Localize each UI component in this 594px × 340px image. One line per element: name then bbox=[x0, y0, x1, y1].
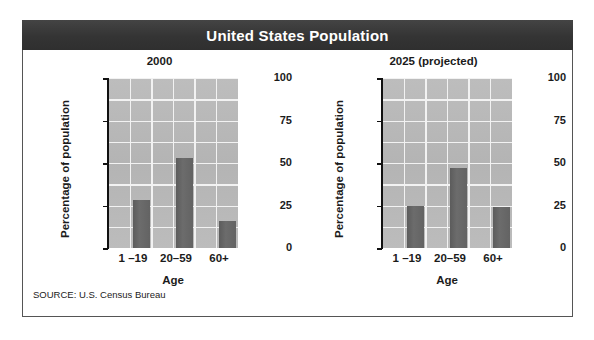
chart-title: 2025 (projected) bbox=[301, 55, 566, 67]
bar-1-19 bbox=[407, 206, 424, 249]
plot-area bbox=[108, 78, 238, 248]
chart-title: 2000 bbox=[27, 55, 292, 67]
plot-area bbox=[382, 78, 512, 248]
y-tick-25: 25 bbox=[494, 199, 566, 211]
source-note: SOURCE: U.S. Census Bureau bbox=[33, 289, 166, 300]
y-tick-100: 100 bbox=[220, 71, 292, 83]
y-tick-50: 50 bbox=[494, 156, 566, 168]
y-tick-25: 25 bbox=[220, 199, 292, 211]
y-tick-75: 75 bbox=[220, 114, 292, 126]
y-tick-100: 100 bbox=[494, 71, 566, 83]
bar-20-59 bbox=[176, 158, 193, 248]
chart-2025-projected: 2025 (projected) bbox=[301, 50, 566, 290]
bar-20-59 bbox=[450, 168, 467, 248]
y-tick-50: 50 bbox=[220, 156, 292, 168]
x-tick-60plus: 60+ bbox=[466, 252, 520, 264]
y-tick-75: 75 bbox=[494, 114, 566, 126]
x-tick-60plus: 60+ bbox=[192, 252, 246, 264]
y-axis-label: Percentage of population bbox=[333, 84, 345, 254]
figure-panel: 2000 bbox=[22, 50, 573, 317]
figure-title: United States Population bbox=[206, 27, 388, 44]
x-axis-label: Age bbox=[108, 274, 238, 286]
chart-2000: 2000 bbox=[27, 50, 292, 290]
figure-title-bar: United States Population bbox=[22, 20, 573, 50]
figure-container: United States Population 2000 bbox=[22, 20, 573, 318]
x-axis-label: Age bbox=[382, 274, 512, 286]
bar-1-19 bbox=[133, 200, 150, 248]
y-axis-label: Percentage of population bbox=[59, 84, 71, 254]
